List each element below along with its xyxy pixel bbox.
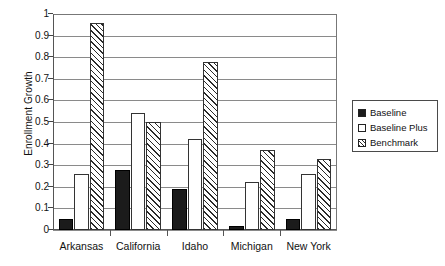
y-axis-tick-label: 0.4: [5, 139, 49, 149]
bar-baseline-arkansas: [59, 219, 74, 230]
gridline: [53, 230, 337, 231]
x-axis-tick-mark: [110, 230, 111, 236]
bar-group: [223, 14, 280, 230]
y-axis-tick: 0.7: [0, 74, 49, 84]
bar-benchmark-idaho: [203, 62, 218, 230]
x-axis-label-california: California: [110, 240, 167, 253]
x-axis-tick-mark: [223, 230, 224, 236]
chart-legend: Baseline Baseline Plus Benchmark: [352, 100, 438, 152]
bar-benchmark-new-york: [317, 159, 332, 230]
enrollment-growth-bar-chart: Enrollment Growth 10.90.80.70.60.50.40.3…: [0, 0, 445, 266]
solid-black-swatch-icon: [358, 109, 366, 117]
y-axis-tick-label: 1: [5, 9, 49, 19]
x-axis-label-new-york: New York: [280, 240, 337, 253]
x-axis-category-labels: ArkansasCaliforniaIdahoMichiganNew York: [53, 240, 337, 260]
y-axis-tick-label: 0.5: [5, 117, 49, 127]
x-axis-label-michigan: Michigan: [223, 240, 280, 253]
bar-baseline-plus-california: [131, 113, 146, 230]
bar-group: [167, 14, 224, 230]
y-axis-tick: 1: [0, 9, 49, 19]
y-axis-tick: 0: [0, 225, 49, 235]
y-axis-tick: 0.5: [0, 117, 49, 127]
bar-baseline-california: [115, 170, 130, 230]
legend-item-benchmark: Benchmark: [358, 136, 433, 150]
x-axis-tick-mark: [167, 230, 168, 236]
bar-baseline-plus-arkansas: [74, 174, 89, 230]
bars-layer: [53, 14, 337, 230]
y-axis-tick: 0.4: [0, 139, 49, 149]
y-axis-tick: 0.1: [0, 203, 49, 213]
bar-benchmark-michigan: [260, 150, 275, 230]
y-axis-tick: 0.2: [0, 182, 49, 192]
bar-baseline-new-york: [286, 219, 301, 230]
legend-item-baseline-plus: Baseline Plus: [358, 121, 433, 135]
y-axis-tick-label: 0.7: [5, 74, 49, 84]
bar-baseline-plus-idaho: [188, 139, 203, 230]
bar-group: [53, 14, 110, 230]
bar-baseline-plus-new-york: [301, 174, 316, 230]
y-axis-tick-label: 0.2: [5, 182, 49, 192]
x-axis-label-idaho: Idaho: [167, 240, 224, 253]
y-axis-tick: 0.9: [0, 31, 49, 41]
y-axis-tick-label: 0.1: [5, 203, 49, 213]
y-axis-tick-label: 0.9: [5, 31, 49, 41]
white-swatch-icon: [358, 124, 366, 132]
bar-baseline-idaho: [172, 189, 187, 230]
hatched-swatch-icon: [358, 139, 366, 147]
x-axis-label-arkansas: Arkansas: [53, 240, 110, 253]
y-axis-tick-label: 0: [5, 225, 49, 235]
bar-benchmark-arkansas: [90, 23, 105, 230]
y-axis-tick-label: 0.8: [5, 52, 49, 62]
legend-item-baseline: Baseline: [358, 106, 433, 120]
bar-baseline-michigan: [229, 226, 244, 230]
y-axis-tick-label: 0.3: [5, 160, 49, 170]
bar-baseline-plus-michigan: [245, 182, 260, 230]
y-axis-tick: 0.8: [0, 52, 49, 62]
legend-label-baseline-plus: Baseline Plus: [370, 123, 428, 133]
y-axis-tick-label: 0.6: [5, 95, 49, 105]
legend-label-benchmark: Benchmark: [370, 138, 418, 148]
x-axis-tick-mark: [280, 230, 281, 236]
bar-group: [280, 14, 337, 230]
bar-benchmark-california: [146, 122, 161, 230]
y-axis-tick: 0.3: [0, 160, 49, 170]
legend-label-baseline: Baseline: [370, 108, 406, 118]
bar-group: [110, 14, 167, 230]
y-axis-tick: 0.6: [0, 95, 49, 105]
